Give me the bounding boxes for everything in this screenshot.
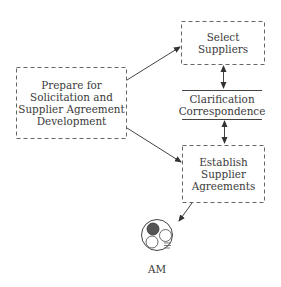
am-label: AM (137, 262, 177, 276)
arrow-prepare-to-select (127, 47, 180, 80)
establish-agreements-label: Establish Supplier Agreements (182, 145, 265, 203)
am-icon (142, 220, 173, 251)
arrow-establish-to-am (179, 203, 192, 221)
prepare-label: Prepare for Solicitation and Supplier Ag… (16, 67, 127, 139)
select-suppliers-label: Select Suppliers (181, 21, 265, 65)
arrow-prepare-to-establish (127, 128, 181, 162)
clarification-label: Clarification Correspondence (182, 91, 262, 119)
